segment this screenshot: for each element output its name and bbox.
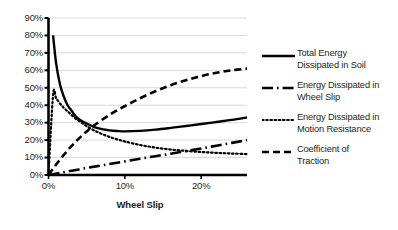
legend-item: Energy Dissipated inMotion Resistance [262, 112, 398, 135]
series-line [49, 90, 248, 175]
chart-legend: Total EnergyDissipated in SoilEnergy Dis… [262, 48, 398, 176]
legend-line-sample [262, 113, 296, 127]
y-axis-tick-label: 10% [9, 151, 43, 162]
x-axis-tick-label: 20% [181, 180, 221, 191]
y-axis-tick-label: 60% [9, 64, 43, 75]
legend-label: Energy Dissipated inMotion Resistance [296, 112, 379, 135]
y-axis-tick-label: 90% [9, 12, 43, 23]
y-axis-tick-label: 80% [9, 29, 43, 40]
legend-label-line-1: Energy Dissipated in [297, 112, 379, 124]
x-axis-title: Wheel Slip [60, 199, 220, 210]
x-axis-tick-label: 0% [29, 180, 69, 191]
legend-item: Energy Dissipated inWheel Slip [262, 80, 398, 103]
legend-label-line-1: Coefficient of [297, 144, 349, 156]
legend-label: Energy Dissipated inWheel Slip [296, 80, 379, 103]
legend-line-sample [262, 145, 296, 159]
y-axis-tick-label: 20% [9, 134, 43, 145]
legend-line-sample [262, 81, 296, 95]
legend-label: Coefficient ofTraction [296, 144, 349, 167]
y-axis-tick-label: 0% [9, 169, 43, 180]
legend-line-sample [262, 49, 296, 63]
legend-label: Total EnergyDissipated in Soil [296, 48, 366, 71]
energy-dissipation-chart: 0%10%20%30%40%50%60%70%80%90% 0%10%20% W… [0, 0, 398, 230]
y-axis-tick-label: 30% [9, 116, 43, 127]
series-line [53, 35, 247, 131]
legend-item: Total EnergyDissipated in Soil [262, 48, 398, 71]
y-axis-tick-label: 50% [9, 82, 43, 93]
y-axis-tick-label: 70% [9, 47, 43, 58]
x-axis-tick-label: 10% [105, 180, 145, 191]
legend-item: Coefficient ofTraction [262, 144, 398, 167]
legend-label-line-1: Energy Dissipated in [297, 80, 379, 92]
legend-label-line-2: Motion Resistance [297, 124, 379, 136]
chart-root: 0%10%20%30%40%50%60%70%80%90% 0%10%20% W… [0, 0, 398, 230]
legend-label-line-2: Wheel Slip [297, 92, 379, 104]
legend-label-line-2: Traction [297, 156, 349, 168]
legend-label-line-1: Total Energy [297, 48, 366, 60]
y-axis-tick-label: 40% [9, 99, 43, 110]
legend-label-line-2: Dissipated in Soil [297, 60, 366, 72]
